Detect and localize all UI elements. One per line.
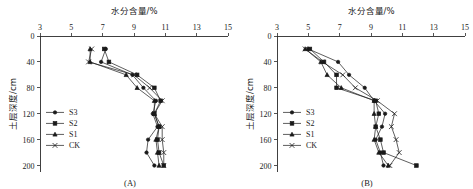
y-tick-label: 120 [23,110,35,119]
y-tick-label: 80 [264,84,272,93]
legend-label-ck: CK [69,141,80,150]
y-tick-label: 0 [268,32,272,41]
marker-square-s2 [153,86,157,90]
x-axis-title: 水分含量/% [348,6,395,16]
marker-square-s2 [290,122,294,126]
legend-label-s1: S1 [306,130,314,139]
x-tick-label: 5 [306,23,310,32]
marker-square-s2 [53,122,57,126]
series-line-ck [305,49,399,166]
marker-triangle-s1 [372,112,376,116]
chart-panel-b: 水分含量/%357911131504080120160200土层深度/cmS3S… [237,0,473,189]
marker-square-s2 [102,47,106,51]
y-tick-label: 40 [27,58,35,67]
x-tick-label: 13 [430,23,438,32]
x-tick-label: 5 [69,23,73,32]
x-tick-label: 7 [101,23,105,32]
chart-svg: 水分含量/%357911131504080120160200土层深度/cmS3S… [0,0,236,189]
x-tick-label: 9 [369,23,373,32]
legend-label-ck: CK [306,141,317,150]
marker-cross-ck [389,124,394,129]
marker-cross-ck [392,111,397,116]
x-tick-label: 15 [224,23,232,32]
marker-circle-s3 [383,112,386,115]
x-tick-label: 15 [461,23,469,32]
chart-svg: 水分含量/%357911131504080120160200土层深度/cmS3S… [237,0,473,189]
legend-label-s2: S2 [306,119,314,128]
y-tick-label: 80 [27,84,35,93]
chart-panel-a: 水分含量/%357911131504080120160200土层深度/cmS3S… [0,0,236,189]
figure-root: 水分含量/%357911131504080120160200土层深度/cmS3S… [0,0,473,189]
legend-label-s1: S1 [69,130,77,139]
marker-circle-s3 [363,86,366,89]
series-line-s2 [104,49,164,166]
marker-square-s2 [415,164,419,168]
y-axis-title: 土层深度/cm [245,78,255,130]
x-tick-label: 3 [38,23,42,32]
marker-circle-s3 [146,138,149,141]
x-tick-label: 3 [275,23,279,32]
y-tick-label: 160 [260,136,272,145]
series-line-s1 [90,49,159,166]
marker-cross-ck [397,150,402,155]
series-line-s3 [101,49,157,166]
marker-circle-s3 [382,164,385,167]
legend-label-s3: S3 [69,108,77,117]
marker-triangle-s1 [157,163,161,167]
marker-square-s2 [379,138,383,142]
series-line-s1 [305,49,388,166]
marker-square-s2 [382,151,386,155]
y-tick-label: 200 [23,162,35,171]
y-tick-label: 0 [31,32,35,41]
legend-label-s2: S2 [69,119,77,128]
marker-circle-s3 [142,86,145,89]
marker-square-s2 [335,86,339,90]
y-tick-label: 160 [23,136,35,145]
x-axis-title: 水分含量/% [111,6,158,16]
marker-circle-s3 [380,125,383,128]
marker-circle-s3 [290,111,293,114]
y-tick-label: 200 [260,162,272,171]
series-line-ck [89,49,164,166]
marker-square-s2 [335,73,339,77]
marker-square-s2 [107,60,111,64]
series-line-s3 [308,49,385,166]
marker-circle-s3 [99,60,102,63]
marker-circle-s3 [145,151,148,154]
marker-circle-s3 [347,73,350,76]
y-axis-title: 土层深度/cm [8,78,18,130]
panel-label: (B) [361,178,373,188]
y-tick-label: 120 [260,110,272,119]
marker-square-s2 [377,112,381,116]
marker-cross-ck [394,137,399,142]
marker-circle-s3 [53,111,56,114]
y-tick-label: 40 [264,58,272,67]
x-tick-label: 13 [193,23,201,32]
marker-circle-s3 [336,60,339,63]
marker-cross-ck [147,85,152,90]
marker-circle-s3 [153,164,156,167]
legend-label-s3: S3 [306,108,314,117]
x-tick-label: 11 [161,23,169,32]
marker-cross-ck [340,72,345,77]
series-line-s2 [310,49,417,166]
x-tick-label: 11 [398,23,406,32]
x-tick-label: 9 [132,23,136,32]
x-tick-label: 7 [338,23,342,32]
marker-cross-ck [353,85,358,90]
marker-square-s2 [308,47,312,51]
panel-label: (A) [124,178,136,188]
marker-triangle-s1 [325,73,329,77]
